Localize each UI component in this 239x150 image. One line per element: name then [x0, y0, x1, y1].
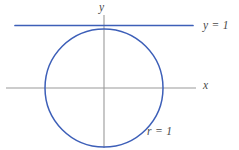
x-axis-label: x	[203, 80, 208, 92]
circle-equation-label: r = 1	[147, 126, 172, 138]
figure-canvas: y x y = 1 r = 1	[0, 0, 239, 150]
line-equation-label: y = 1	[203, 20, 229, 32]
y-axis-label: y	[99, 2, 104, 14]
